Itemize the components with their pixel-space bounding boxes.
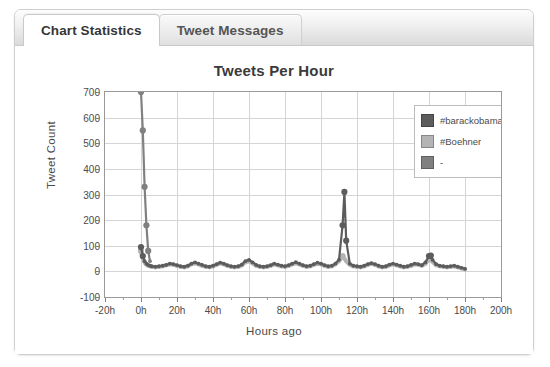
legend-item-third: - — [421, 153, 502, 171]
series-marker — [330, 264, 334, 268]
y-axis: -1000100200300400500600700 — [56, 91, 100, 298]
series-marker — [236, 264, 240, 268]
series-marker — [298, 262, 302, 266]
series-marker — [326, 264, 330, 268]
series-marker — [301, 263, 305, 267]
series-marker — [254, 263, 258, 267]
series-marker — [334, 262, 338, 266]
series-marker — [316, 261, 320, 265]
series-marker — [143, 222, 149, 228]
tab-chart-statistics[interactable]: Chart Statistics — [23, 14, 160, 46]
series-marker — [208, 265, 212, 269]
series-marker — [204, 264, 208, 268]
x-tick-mark — [321, 298, 322, 302]
legend-item-barackobama: #barackobama — [421, 111, 502, 129]
series-marker — [308, 264, 312, 268]
series-marker — [305, 264, 309, 268]
x-tick-mark — [357, 298, 358, 302]
series-marker — [409, 263, 413, 267]
series-marker — [154, 265, 158, 269]
series-marker — [442, 264, 446, 268]
plot-area: #barackobama #Boehner - — [104, 91, 502, 298]
x-tick-minor — [195, 298, 196, 300]
series-marker — [359, 265, 363, 269]
series-marker — [229, 264, 233, 268]
series-marker — [352, 264, 356, 268]
series-marker — [222, 262, 226, 266]
y-tick-label: 100 — [60, 240, 100, 251]
y-tick-label: 200 — [60, 215, 100, 226]
x-tick-minor — [375, 298, 376, 300]
series-marker — [186, 264, 190, 268]
series-marker — [323, 263, 327, 267]
series-marker — [362, 264, 366, 268]
series-marker — [240, 263, 244, 267]
series-marker — [265, 264, 269, 268]
series-marker — [456, 265, 460, 269]
series-marker — [140, 127, 146, 133]
x-tick-minor — [411, 298, 412, 300]
series-marker — [398, 264, 402, 268]
y-tick-mark — [96, 246, 100, 247]
series-marker — [247, 258, 251, 262]
y-tick-mark — [96, 297, 100, 298]
x-tick-minor — [339, 298, 340, 300]
series-marker — [148, 259, 152, 263]
x-tick-mark — [393, 298, 394, 302]
series-marker — [366, 262, 370, 266]
series-marker — [138, 244, 144, 250]
series-marker — [161, 264, 165, 268]
series-marker — [164, 263, 168, 267]
series-marker — [197, 262, 201, 266]
series-line — [141, 92, 150, 261]
series-marker — [445, 265, 449, 269]
chart-container: Tweets Per Hour Tweet Count -10001002003… — [15, 46, 533, 354]
series-marker — [380, 265, 384, 269]
series-line — [141, 192, 465, 269]
series-marker — [168, 262, 172, 266]
series-marker — [244, 259, 248, 263]
chart-title: Tweets Per Hour — [15, 62, 533, 79]
series-marker — [438, 264, 442, 268]
series-marker — [269, 263, 273, 267]
x-tick-minor — [159, 298, 160, 300]
series-marker — [182, 265, 186, 269]
series-marker — [416, 262, 420, 266]
series-marker — [280, 264, 284, 268]
series-marker — [262, 265, 266, 269]
x-tick-minor — [303, 298, 304, 300]
series-marker — [218, 261, 222, 265]
series-marker — [175, 263, 179, 267]
series-marker — [337, 258, 341, 262]
y-tick-label: -100 — [60, 292, 100, 303]
series-marker — [406, 264, 410, 268]
series-marker — [341, 189, 347, 195]
y-tick-label: 700 — [60, 87, 100, 98]
y-tick-label: 400 — [60, 163, 100, 174]
series-marker — [343, 238, 349, 244]
y-tick-mark — [96, 118, 100, 119]
legend-swatch-icon — [421, 135, 434, 148]
y-tick-mark — [96, 271, 100, 272]
x-tick-mark — [105, 298, 106, 302]
series-marker — [142, 184, 148, 190]
series-marker — [251, 261, 255, 265]
series-marker — [150, 264, 154, 268]
x-tick-mark — [465, 298, 466, 302]
legend-swatch-icon — [421, 114, 434, 127]
chart-legend: #barackobama #Boehner - — [414, 105, 502, 178]
x-tick-mark — [285, 298, 286, 302]
series-marker — [373, 262, 377, 266]
series-marker — [340, 222, 346, 228]
series-marker — [402, 265, 406, 269]
series-marker — [452, 264, 456, 268]
series-marker — [272, 262, 276, 266]
legend-label: #barackobama — [440, 115, 502, 126]
series-marker — [157, 264, 161, 268]
x-tick-mark — [249, 298, 250, 302]
y-tick-mark — [96, 195, 100, 196]
tab-tweet-messages[interactable]: Tweet Messages — [159, 14, 302, 46]
series-marker — [413, 262, 417, 266]
series-marker — [384, 264, 388, 268]
series-marker — [283, 264, 287, 268]
